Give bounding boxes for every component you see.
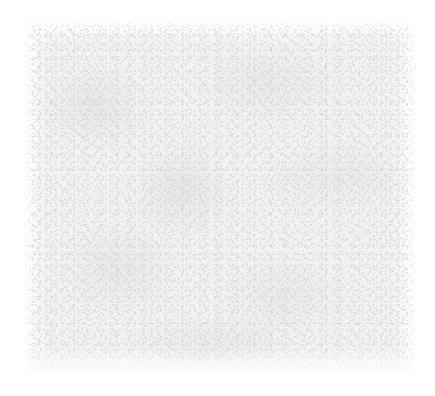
page-body-text	[25, 22, 415, 374]
scanned-document-page	[0, 0, 435, 396]
scanned-page-area	[25, 22, 415, 374]
